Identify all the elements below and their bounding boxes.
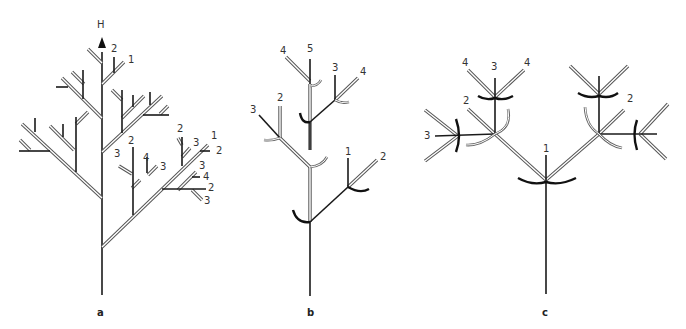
solid-branches-b xyxy=(259,59,348,296)
panel-c: 4 3 4 2 3 1 2 c xyxy=(424,57,668,318)
solid-branches xyxy=(19,57,210,215)
svg-text:3: 3 xyxy=(160,161,166,172)
svg-text:1: 1 xyxy=(345,146,351,157)
arrow-up-icon xyxy=(98,37,106,48)
svg-text:2: 2 xyxy=(128,135,134,146)
svg-text:4: 4 xyxy=(462,57,468,68)
svg-text:3: 3 xyxy=(332,62,338,73)
svg-text:2: 2 xyxy=(208,182,214,193)
svg-text:2: 2 xyxy=(277,92,283,103)
panel-label-c: c xyxy=(542,307,548,318)
svg-text:1: 1 xyxy=(211,130,217,141)
svg-text:4: 4 xyxy=(143,152,149,163)
svg-text:3: 3 xyxy=(491,61,497,72)
svg-text:2: 2 xyxy=(380,151,386,162)
panel-b: 4 5 3 4 3 2 1 2 b xyxy=(250,43,386,318)
svg-text:2: 2 xyxy=(177,123,183,134)
svg-text:4: 4 xyxy=(360,66,366,77)
order-labels-b: 4 5 3 4 3 2 1 2 xyxy=(250,43,386,162)
svg-text:2: 2 xyxy=(111,43,117,54)
panel-label-a: a xyxy=(97,307,104,318)
svg-text:3: 3 xyxy=(199,160,205,171)
axis-label-h: H xyxy=(97,19,105,30)
order-labels-a: 2 1 2 3 1 2 2 3 4 3 3 4 2 3 xyxy=(111,43,222,206)
svg-text:4: 4 xyxy=(203,171,209,182)
svg-text:3: 3 xyxy=(424,130,430,141)
svg-text:5: 5 xyxy=(307,43,313,54)
svg-text:1: 1 xyxy=(543,143,549,154)
svg-text:2: 2 xyxy=(216,145,222,156)
svg-text:2: 2 xyxy=(627,93,633,104)
svg-text:4: 4 xyxy=(280,45,286,56)
hollow-branches-b xyxy=(280,57,377,222)
svg-text:1: 1 xyxy=(128,54,134,65)
panel-label-b: b xyxy=(307,307,314,318)
svg-text:3: 3 xyxy=(204,195,210,206)
svg-text:2: 2 xyxy=(463,95,469,106)
panel-a: H xyxy=(19,19,222,318)
svg-text:3: 3 xyxy=(114,148,120,159)
svg-text:3: 3 xyxy=(193,137,199,148)
svg-text:3: 3 xyxy=(250,104,256,115)
branching-diagram: H xyxy=(0,0,686,329)
svg-text:4: 4 xyxy=(524,57,530,68)
